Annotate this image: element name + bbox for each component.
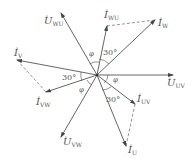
phasor-dot-icon (65, 136, 66, 137)
phasor-dot-icon (38, 96, 39, 97)
phasor-dot-icon (46, 15, 47, 16)
phasor-dot-icon (139, 93, 140, 94)
thirty-degree-label: 30° (103, 48, 117, 57)
phasor-dot-icon (106, 9, 107, 10)
phasor-vectors (17, 13, 173, 146)
phasor-dot-icon (169, 77, 170, 78)
phi-angle-label: φ (113, 76, 118, 84)
label-i-wu: IWU (103, 9, 119, 21)
origin-point (96, 74, 98, 76)
label-i-w: IW (157, 17, 169, 29)
thirty-degree-label: 30° (106, 95, 120, 104)
phasor-dot-icon (16, 47, 17, 48)
phasor-diagram: UWUIWUIWIVIVWUUVIUVIUUVW 30°30°30°φφφ (0, 0, 193, 163)
label-u-vw: UVW (63, 136, 83, 148)
angle-labels: 30°30°30°φφφ (62, 48, 120, 104)
label-u-wu: UWU (44, 15, 64, 27)
phasor-dot-icon (130, 144, 131, 145)
dashed-line (126, 104, 135, 146)
phi-angle-label: φ (89, 50, 94, 58)
phasor-dot-icon (160, 17, 161, 18)
label-i-u: IU (127, 144, 137, 156)
vector-u-vw (61, 75, 97, 137)
thirty-degree-label: 30° (62, 73, 76, 82)
phi-angle-label: φ (79, 86, 84, 94)
label-i-uv: IUV (136, 93, 151, 105)
vector-u-wu (61, 13, 97, 75)
label-u-uv: UUV (167, 77, 185, 89)
label-i-v: IV (13, 47, 23, 59)
dashed-construction-lines (17, 20, 155, 146)
label-i-vw: IVW (35, 96, 51, 108)
phasor-labels: UWUIWUIWIVIVWUUVIUVIUUVW (13, 9, 185, 156)
